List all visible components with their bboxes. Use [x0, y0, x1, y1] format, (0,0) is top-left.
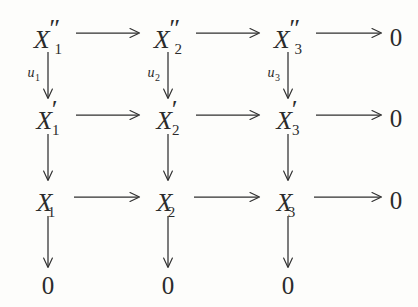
- label-subscript: 2: [155, 71, 160, 82]
- label-subscript: 3: [275, 71, 280, 82]
- label-symbol: u: [268, 65, 275, 80]
- node-prime: ″: [48, 14, 58, 43]
- arrow-row2-col2-col3: [196, 111, 260, 120]
- arrow-col2-row3-row4: [164, 216, 173, 268]
- node-zero-col3: 0: [282, 273, 295, 298]
- label-u-3: u3: [268, 66, 281, 83]
- arrow-row3-col3-zero: [314, 193, 382, 202]
- label-u-2: u2: [148, 66, 161, 83]
- node-subscript: 2: [172, 123, 180, 139]
- arrow-col2-row1-row2: [164, 52, 173, 99]
- label-symbol: u: [148, 65, 155, 80]
- arrow-row2-col3-zero: [316, 111, 382, 120]
- arrow-col3-row1-row2: [284, 52, 293, 99]
- node-subscript: 1: [48, 205, 56, 221]
- node-zero-row3: 0: [390, 188, 403, 213]
- arrow-layer: [0, 0, 418, 307]
- node-zero-col2: 0: [162, 273, 175, 298]
- node-x-prime-1: X′1: [36, 97, 59, 138]
- node-x-prime-2: X′2: [156, 97, 179, 138]
- arrow-row1-col2-col3: [196, 29, 260, 38]
- node-subscript: 2: [168, 205, 176, 221]
- node-prime: ″: [168, 14, 178, 43]
- node-prime: ″: [288, 14, 298, 43]
- node-subscript: 3: [295, 42, 303, 58]
- arrow-row3-col1-col2: [74, 193, 140, 202]
- label-symbol: u: [28, 65, 35, 80]
- node-subscript: 2: [175, 42, 183, 58]
- node-x-prime-3: X′3: [276, 97, 299, 138]
- arrow-col2-row2-row3: [164, 134, 173, 181]
- label-u-1: u1: [28, 66, 41, 83]
- node-subscript: 3: [288, 205, 296, 221]
- node-prime: ′: [50, 95, 55, 124]
- node-zero-col1: 0: [42, 273, 55, 298]
- arrow-col3-row3-row4: [284, 216, 293, 268]
- node-x-2: X2: [157, 179, 176, 220]
- node-x-double-prime-1: X″1: [34, 16, 63, 57]
- node-prime: ′: [170, 95, 175, 124]
- arrow-row1-col3-zero: [316, 29, 382, 38]
- node-subscript: 1: [52, 123, 60, 139]
- node-zero-row1: 0: [390, 25, 403, 50]
- arrow-col3-row2-row3: [284, 134, 293, 181]
- arrow-row3-col2-col3: [194, 193, 260, 202]
- node-x-3: X3: [277, 179, 296, 220]
- arrow-col1-row3-row4: [44, 216, 53, 268]
- node-x-double-prime-3: X″3: [274, 16, 303, 57]
- node-x-double-prime-2: X″2: [154, 16, 183, 57]
- node-prime: ′: [290, 95, 295, 124]
- node-x-1: X1: [37, 179, 56, 220]
- arrow-col1-row2-row3: [44, 134, 53, 181]
- node-zero-row2: 0: [390, 106, 403, 131]
- arrow-row1-col1-col2: [76, 29, 140, 38]
- commutative-diagram: X″1 X″2 X″3 0 X′1 X′2 X′3 0 X1 X2 X3 0 0…: [0, 0, 418, 307]
- node-subscript: 1: [55, 42, 63, 58]
- arrow-col1-row1-row2: [44, 52, 53, 99]
- node-subscript: 3: [292, 123, 300, 139]
- label-subscript: 1: [35, 71, 40, 82]
- arrow-row2-col1-col2: [76, 111, 140, 120]
